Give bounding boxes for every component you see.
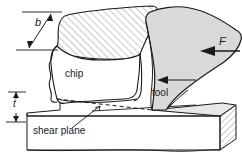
t-dimension-arrowhead-bottom [13, 116, 19, 122]
chip-label: chip [65, 69, 83, 79]
workpiece-left-step [27, 93, 60, 113]
chip-top-surface [57, 6, 158, 59]
t-dimension-group [6, 92, 26, 122]
shear-plane-label: shear plane [33, 126, 85, 136]
cutting-force-label: F [219, 36, 226, 47]
uncut-chip-thickness-label: t [13, 99, 16, 109]
tool-label: tool [152, 88, 168, 98]
chip-body [49, 6, 157, 103]
orthogonal-cutting-diagram: b t F chip tool shear plane [0, 0, 242, 159]
chip-width-dimension-label: b [35, 17, 41, 28]
